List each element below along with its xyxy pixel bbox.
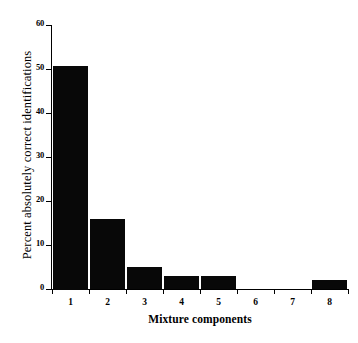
plot-area: 0 10 20 30 40 50 60 xyxy=(51,25,348,289)
y-tick-label: 40 xyxy=(36,106,44,116)
y-tick-50: 50 xyxy=(46,69,51,70)
x-tick-label: 5 xyxy=(204,297,234,307)
bar-2 xyxy=(90,219,125,289)
x-tick-boundary xyxy=(126,290,127,294)
y-tick-label: 0 xyxy=(40,282,44,292)
y-tick-label: 50 xyxy=(36,62,44,72)
x-tick-label: 6 xyxy=(241,297,271,307)
x-tick-label: 2 xyxy=(93,297,123,307)
y-tick-40: 40 xyxy=(46,113,51,114)
x-tick-boundary xyxy=(200,290,201,294)
x-tick-label: 4 xyxy=(167,297,197,307)
x-tick-boundary xyxy=(89,290,90,294)
x-tick-boundary xyxy=(311,290,312,294)
x-tick-label: 1 xyxy=(56,297,86,307)
y-tick-label: 60 xyxy=(36,18,44,28)
bar-1 xyxy=(53,66,88,290)
y-axis-title: Percent absolutely correct identificatio… xyxy=(18,10,36,300)
x-tick-boundary xyxy=(274,290,275,294)
x-tick-boundary xyxy=(163,290,164,294)
x-axis-title: Mixture components xyxy=(51,313,349,325)
bar-chart-figure: Percent absolutely correct identificatio… xyxy=(0,0,358,343)
y-tick-60: 60 xyxy=(46,25,51,26)
y-tick-label: 10 xyxy=(36,238,44,248)
x-tick-boundary xyxy=(52,290,53,294)
bar-5 xyxy=(201,276,236,289)
y-tick-0: 0 xyxy=(46,289,51,290)
y-axis-line xyxy=(51,25,52,290)
y-tick-30: 30 xyxy=(46,157,51,158)
y-tick-label: 30 xyxy=(36,150,44,160)
x-tick-label: 8 xyxy=(315,297,345,307)
x-tick-label: 3 xyxy=(130,297,160,307)
y-tick-10: 10 xyxy=(46,245,51,246)
x-tick-boundary xyxy=(237,290,238,294)
x-tick-boundary xyxy=(348,290,349,294)
x-tick-label: 7 xyxy=(278,297,308,307)
bar-4 xyxy=(164,276,199,289)
bar-3 xyxy=(127,267,162,289)
bar-8 xyxy=(312,280,347,289)
y-tick-20: 20 xyxy=(46,201,51,202)
y-tick-label: 20 xyxy=(36,194,44,204)
